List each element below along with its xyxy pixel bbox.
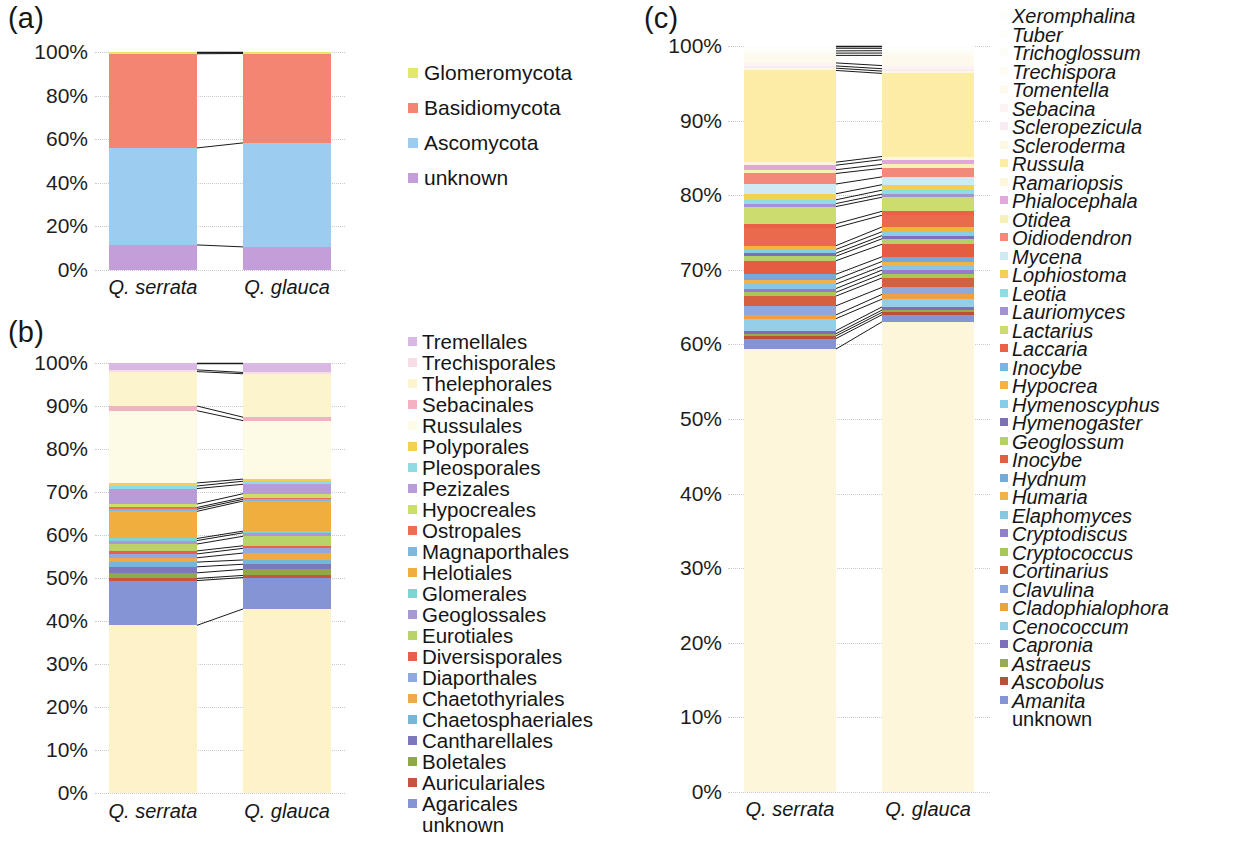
panel-c-letter: (c) (644, 2, 678, 35)
legend-swatch-icon (1000, 474, 1008, 482)
y-tick-label: 10% (46, 738, 88, 762)
legend-swatch-icon (1000, 640, 1008, 648)
legend-swatch-icon (1000, 585, 1008, 593)
legend-label: Hypocreales (422, 500, 536, 521)
y-tick-label: 0% (58, 781, 88, 805)
y-tick-label: 60% (46, 127, 88, 151)
panel-b-x-axis: Q. serrataQ. glauca (95, 800, 345, 830)
legend-item: Russula (1000, 154, 1169, 174)
panel-b: (b) 0%10%20%30%40%50%60%70%80%90%100% Q.… (0, 312, 640, 843)
legend-swatch-icon (1000, 85, 1008, 93)
legend-swatch-icon (1000, 307, 1008, 315)
legend-swatch-icon (1000, 400, 1008, 408)
legend-label: Diaporthales (422, 668, 537, 689)
legend-swatch-icon (408, 421, 417, 430)
x-tick-label: Q. glauca (244, 800, 330, 823)
legend-swatch-icon (408, 589, 417, 598)
legend-item: Oidiodendron (1000, 228, 1169, 248)
legend-swatch-icon (408, 757, 417, 766)
legend-swatch-icon (1000, 178, 1008, 186)
legend-swatch-icon (1000, 215, 1008, 223)
legend-swatch-icon (408, 799, 417, 808)
legend-label: Hypocrea (1012, 376, 1098, 396)
y-tick-label: 90% (46, 394, 88, 418)
panel-b-connectors (95, 363, 345, 793)
legend-label: Tremellales (422, 332, 527, 353)
y-tick-label: 40% (46, 609, 88, 633)
legend-item: unknown (1000, 709, 1169, 729)
legend-item: Eurotiales (408, 626, 593, 647)
legend-item: Hypocrea (1000, 376, 1169, 396)
legend-swatch-icon (1000, 159, 1008, 167)
legend-label: Polyporales (422, 437, 529, 458)
legend-label: Hymenogaster (1012, 413, 1142, 433)
y-tick-label: 90% (680, 109, 722, 133)
legend-item: Phialocephala (1000, 191, 1169, 211)
legend-label: Capronia (1012, 635, 1093, 655)
legend-item: unknown (408, 815, 593, 836)
legend-label: Cortinarius (1012, 561, 1109, 581)
y-tick-label: 20% (46, 695, 88, 719)
legend-swatch-icon (408, 631, 417, 640)
gridline-0 (95, 270, 345, 271)
legend-swatch-icon (1000, 270, 1008, 278)
legend-swatch-icon (1000, 196, 1008, 204)
legend-item: Helotiales (408, 563, 593, 584)
legend-label: Laccaria (1012, 339, 1088, 359)
legend-label: Ostropales (422, 521, 521, 542)
legend-swatch-icon (408, 715, 417, 724)
y-tick-label: 100% (668, 34, 722, 58)
legend-swatch-icon (408, 736, 417, 745)
legend-label: Diversisporales (422, 647, 562, 668)
legend-swatch-icon (1000, 67, 1008, 75)
panel-c-legend: XeromphalinaTuberTrichoglossumTrechispor… (1000, 6, 1169, 728)
connector-line (197, 564, 243, 567)
legend-swatch-icon (1000, 30, 1008, 38)
legend-label: Chaetosphaeriales (422, 710, 593, 731)
legend-swatch-icon (408, 547, 417, 556)
legend-swatch-icon (408, 358, 417, 367)
y-tick-label: 70% (46, 480, 88, 504)
legend-item: Tomentella (1000, 80, 1169, 100)
legend-swatch-icon (1000, 252, 1008, 260)
legend-item: Polyporales (408, 437, 593, 458)
connector-line (836, 266, 882, 284)
y-tick-label: 50% (46, 566, 88, 590)
legend-label: Eurotiales (422, 626, 513, 647)
legend-label: unknown (424, 167, 508, 188)
legend-swatch-icon (408, 568, 417, 577)
y-tick-label: 80% (46, 437, 88, 461)
panel-a-plot (95, 52, 345, 270)
legend-item: Diaporthales (408, 668, 593, 689)
y-tick-label: 40% (46, 171, 88, 195)
y-tick-label: 70% (680, 258, 722, 282)
legend-label: unknown (422, 815, 504, 836)
connector-line (197, 609, 243, 625)
legend-swatch-icon (408, 694, 417, 703)
legend-swatch-icon (1000, 104, 1008, 112)
legend-label: Pezizales (422, 479, 510, 500)
legend-label: Xeromphalina (1012, 6, 1135, 26)
legend-label: Auriculariales (422, 773, 545, 794)
legend-item: Boletales (408, 752, 593, 773)
connector-line (836, 185, 882, 194)
legend-swatch-icon (1000, 437, 1008, 445)
y-tick-label: 100% (34, 351, 88, 375)
legend-item: Capronia (1000, 635, 1169, 655)
y-tick-label: 10% (680, 705, 722, 729)
connector-line (836, 310, 882, 334)
legend-item: Sebacinales (408, 395, 593, 416)
panel-c: (c) 0%10%20%30%40%50%60%70%80%90%100% Q.… (630, 0, 1255, 843)
legend-swatch-icon (408, 673, 417, 682)
legend-label: Tomentella (1012, 80, 1109, 100)
legend-label: Oidiodendron (1012, 228, 1132, 248)
connector-line (836, 294, 882, 314)
legend-item: Lophiostoma (1000, 265, 1169, 285)
legend-item: Humaria (1000, 487, 1169, 507)
gridline-0 (728, 792, 990, 793)
connector-line (197, 553, 243, 558)
legend-label: Glomerales (422, 584, 527, 605)
legend-item: Trichoglossum (1000, 43, 1169, 63)
legend-item: Agaricales (408, 794, 593, 815)
legend-label: Agaricales (422, 794, 518, 815)
